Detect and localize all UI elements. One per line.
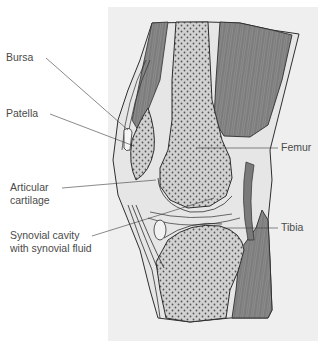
hamstring-muscle [214, 22, 292, 137]
label-femur: Femur [281, 141, 311, 154]
label-patella: Patella [6, 107, 38, 120]
label-synovial-line1: Synovial cavity [10, 229, 92, 242]
label-tibia: Tibia [281, 221, 303, 234]
knee-joint-illustration [0, 0, 325, 351]
label-synovial-cavity: Synovial cavity with synovial fluid [10, 229, 92, 255]
label-articular-line1: Articular [10, 181, 50, 194]
fat-pad [154, 220, 166, 240]
bursa-leader [46, 58, 128, 130]
label-synovial-line2: with synovial fluid [10, 242, 92, 255]
label-bursa: Bursa [6, 51, 33, 64]
label-articular-cartilage: Articular cartilage [10, 181, 50, 207]
label-articular-line2: cartilage [10, 194, 50, 207]
